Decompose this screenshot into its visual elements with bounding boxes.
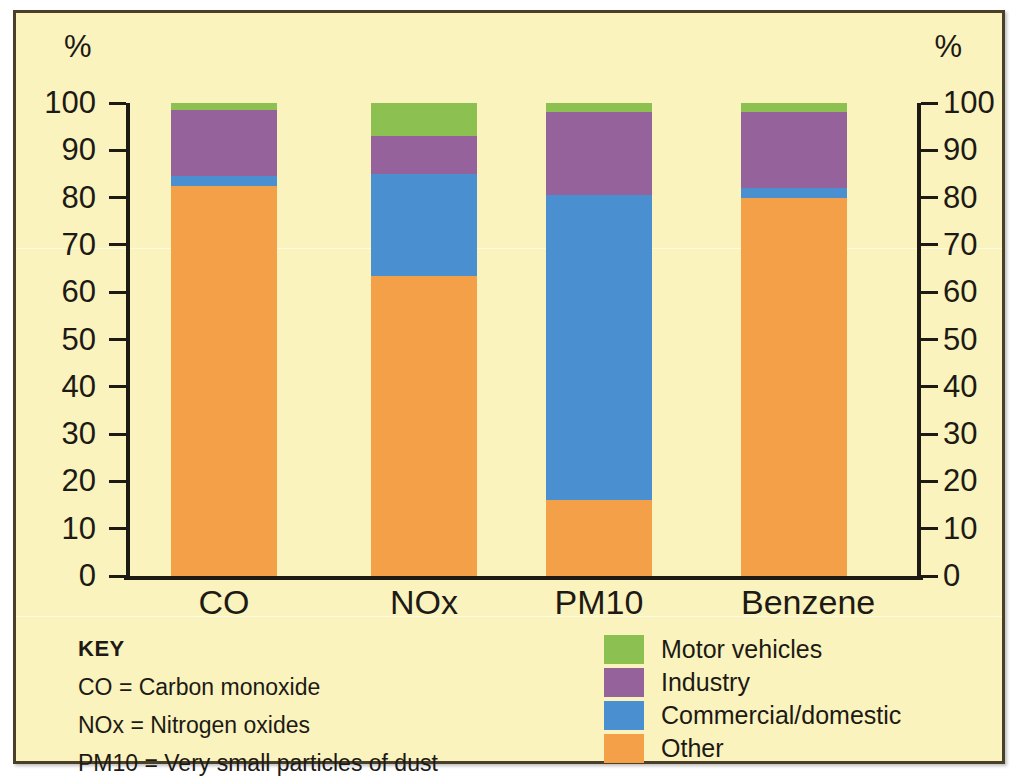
y-tick-label-left: 90 <box>62 134 96 165</box>
bar-segment[interactable] <box>171 186 277 576</box>
x-axis-label-nox: NOx <box>371 585 477 619</box>
legend-item[interactable]: Motor vehicles <box>604 633 901 666</box>
bar-segment[interactable] <box>741 112 847 188</box>
y-tick-label-left: 70 <box>62 229 96 260</box>
y-tick-right <box>921 385 938 388</box>
bar-segment[interactable] <box>171 110 277 176</box>
y-tick-label-left: 60 <box>62 276 96 307</box>
chart-frame: % % 0102030405060708090100 0102030405060… <box>13 10 1005 764</box>
bar-segment[interactable] <box>171 176 277 185</box>
legend-item[interactable]: Other <box>604 732 901 765</box>
bar-segment[interactable] <box>171 103 277 110</box>
y-tick-label-right: 80 <box>943 182 977 213</box>
bar-segment[interactable] <box>371 136 477 174</box>
y-tick-right <box>921 480 938 483</box>
legend-item[interactable]: Commercial/domestic <box>604 699 901 732</box>
y-tick-right <box>921 575 938 578</box>
y-axis-left-line <box>126 103 130 576</box>
key-line: PM10 = Very small particles of dust <box>78 750 508 777</box>
y-tick-right <box>921 102 938 105</box>
bar-segment[interactable] <box>546 103 652 112</box>
y-tick-left <box>109 243 126 246</box>
y-tick-left <box>109 196 126 199</box>
y-tick-right <box>921 149 938 152</box>
y-tick-right <box>921 527 938 530</box>
bar-pm10[interactable] <box>546 103 652 576</box>
y-tick-label-right: 40 <box>943 371 977 402</box>
y-tick-label-left: 50 <box>62 324 96 355</box>
y-tick-left <box>109 291 126 294</box>
legend-label: Motor vehicles <box>661 637 822 662</box>
y-tick-label-right: 100 <box>943 87 995 118</box>
key-title: KEY <box>78 636 508 662</box>
x-axis-label-co: CO <box>171 585 277 619</box>
y-tick-label-right: 30 <box>943 418 977 449</box>
key-line: NOx = Nitrogen oxides <box>78 712 508 739</box>
y-tick-label-right: 70 <box>943 229 977 260</box>
y-tick-label-left: 80 <box>62 182 96 213</box>
y-tick-right <box>921 433 938 436</box>
y-tick-label-left: 30 <box>62 418 96 449</box>
y-tick-right <box>921 291 938 294</box>
bar-segment[interactable] <box>546 112 652 195</box>
key-block: KEY CO = Carbon monoxideNOx = Nitrogen o… <box>78 636 508 777</box>
y-tick-left <box>109 102 126 105</box>
y-tick-label-left: 0 <box>79 560 96 591</box>
y-tick-right <box>921 338 938 341</box>
y-tick-label-right: 90 <box>943 134 977 165</box>
bar-segment[interactable] <box>371 103 477 136</box>
legend-label: Other <box>661 736 724 761</box>
y-tick-label-right: 60 <box>943 276 977 307</box>
bar-co[interactable] <box>171 103 277 576</box>
y-tick-label-left: 100 <box>44 87 96 118</box>
legend-label: Industry <box>661 670 750 695</box>
legend: Motor vehiclesIndustryCommercial/domesti… <box>604 633 901 765</box>
bar-segment[interactable] <box>741 198 847 576</box>
key-line: CO = Carbon monoxide <box>78 674 508 701</box>
bar-segment[interactable] <box>371 276 477 576</box>
bar-segment[interactable] <box>741 188 847 197</box>
bar-segment[interactable] <box>546 500 652 576</box>
bar-benzene[interactable] <box>741 103 847 576</box>
legend-swatch-icon <box>604 635 644 664</box>
bar-segment[interactable] <box>371 174 477 276</box>
key-lines: CO = Carbon monoxideNOx = Nitrogen oxide… <box>78 674 508 777</box>
legend-swatch-icon <box>604 668 644 697</box>
x-axis-label-benzene: Benzene <box>741 585 847 619</box>
y-tick-right <box>921 243 938 246</box>
y-tick-left <box>109 149 126 152</box>
chart-figure: % % 0102030405060708090100 0102030405060… <box>0 0 1021 777</box>
y-tick-right <box>921 196 938 199</box>
legend-label: Commercial/domestic <box>661 703 901 728</box>
legend-item[interactable]: Industry <box>604 666 901 699</box>
bar-segment[interactable] <box>546 195 652 500</box>
y-tick-left <box>109 385 126 388</box>
y-tick-label-right: 50 <box>943 324 977 355</box>
y-tick-left <box>109 433 126 436</box>
y-tick-left <box>109 575 126 578</box>
y-tick-label-left: 40 <box>62 371 96 402</box>
y-axis-unit-right: % <box>934 31 962 62</box>
y-tick-label-right: 10 <box>943 513 977 544</box>
bar-nox[interactable] <box>371 103 477 576</box>
y-tick-label-left: 10 <box>62 513 96 544</box>
x-axis-line <box>124 576 923 580</box>
y-tick-label-right: 20 <box>943 465 977 496</box>
plot-area: 0102030405060708090100 01020304050607080… <box>126 103 921 576</box>
legend-swatch-icon <box>604 701 644 730</box>
bar-segment[interactable] <box>741 103 847 112</box>
y-tick-left <box>109 480 126 483</box>
y-tick-label-left: 20 <box>62 465 96 496</box>
legend-swatch-icon <box>604 734 644 763</box>
y-axis-unit-left: % <box>64 31 92 62</box>
y-tick-label-right: 0 <box>943 560 960 591</box>
y-tick-left <box>109 338 126 341</box>
x-axis-label-pm10: PM10 <box>546 585 652 619</box>
y-tick-left <box>109 527 126 530</box>
